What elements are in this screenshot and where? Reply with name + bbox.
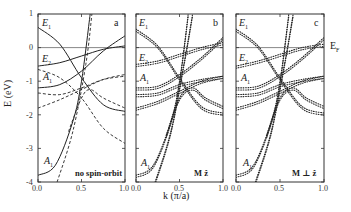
band-curve-split xyxy=(166,90,223,137)
a-x-tick-1: 1.0 xyxy=(119,185,129,193)
panel-a-label-a1-lower: A1 xyxy=(44,155,53,168)
panel-c-letter: c xyxy=(314,17,318,28)
b-x-tick-1: 1.0 xyxy=(218,185,228,193)
panel-c-note: M ⊥ ẑ xyxy=(292,168,316,178)
fermi-level-label: EF xyxy=(330,40,339,53)
c-x-tick-0: 0.0 xyxy=(231,185,241,193)
b-x-tick-05: 0.5 xyxy=(174,185,184,193)
y-tick-1: 1 xyxy=(29,10,33,18)
a-x-tick-0: 0.0 xyxy=(32,185,42,193)
panel-b-label-e1: E1 xyxy=(139,17,148,30)
band-curve xyxy=(255,14,293,182)
panel-c-label-a1-upper: A1 xyxy=(241,72,250,85)
panel-c-label-e2: E2 xyxy=(239,52,248,65)
band-structure-figure xyxy=(0,0,351,212)
band-curve-split xyxy=(267,90,324,137)
panel-c-label-e1: E1 xyxy=(239,17,248,30)
panel-c-label-a1-lower: A1 xyxy=(243,157,252,170)
y-tick-m1: -1 xyxy=(26,78,33,86)
panel-b-note: M ẑ xyxy=(194,168,208,178)
y-tick-m3: -3 xyxy=(26,145,33,153)
y-tick-m2: -2 xyxy=(26,112,33,120)
panel-a-note: no spin-orbit xyxy=(75,168,122,178)
band-curve xyxy=(69,90,126,132)
panel-a-label-e1: E1 xyxy=(42,17,51,30)
band-curve-split xyxy=(136,45,223,67)
panel-b-label-a1-lower: A1 xyxy=(141,157,150,170)
b-x-tick-0: 0.0 xyxy=(131,185,141,193)
y-axis-label: E (eV) xyxy=(2,80,13,107)
panel-a-letter: a xyxy=(114,17,118,28)
c-x-tick-1: 1.0 xyxy=(318,185,328,193)
y-tick-0: 0 xyxy=(29,44,33,52)
panel-b-label-a1-upper: A1 xyxy=(140,72,149,85)
panel-a-label-a1-upper: A1 xyxy=(43,71,52,84)
band-curve xyxy=(136,43,223,65)
c-x-tick-05: 0.5 xyxy=(274,185,284,193)
band-curve xyxy=(155,14,193,182)
band-curve xyxy=(38,14,90,175)
a-x-tick-05: 0.5 xyxy=(76,185,86,193)
panel-b-letter: b xyxy=(213,17,218,28)
panel-a-label-e2: E2 xyxy=(42,53,51,66)
panel-b-label-e2: E2 xyxy=(139,52,148,65)
